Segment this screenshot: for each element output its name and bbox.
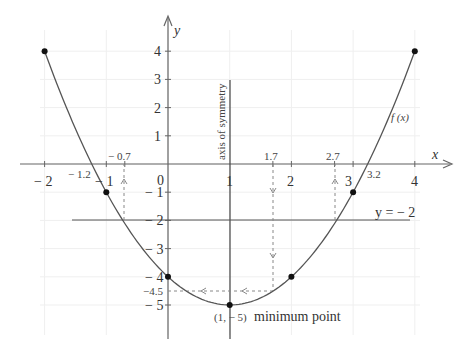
- function-label: f (x): [391, 111, 409, 124]
- x-tick-label: 1: [226, 174, 233, 189]
- quadratic-graph: axis of symmetry y = − 2 x y 0 f (x) − 2…: [0, 0, 476, 339]
- data-point: [165, 274, 171, 280]
- x-tick-label: 3: [345, 174, 352, 189]
- y-tick-label: − 3: [145, 242, 163, 257]
- y-tick-label: 3: [154, 72, 161, 87]
- x-17-label: 1.7: [264, 150, 278, 162]
- y-value-minus-4-5: −4.5: [143, 285, 163, 297]
- minimum-point-label: minimum point: [254, 309, 341, 324]
- data-point: [350, 189, 356, 195]
- horizontal-line-label: y = − 2: [375, 205, 415, 220]
- axis-of-symmetry-label: axis of symmetry: [215, 83, 227, 160]
- root-right-label: 3.2: [367, 168, 381, 180]
- y-tick-label: − 2: [145, 213, 163, 228]
- y-tick-label: − 1: [145, 185, 163, 200]
- data-point: [103, 189, 109, 195]
- y-tick-label: − 5: [145, 298, 163, 313]
- data-point: [412, 48, 418, 54]
- data-point: [227, 302, 233, 308]
- y-tick-label: 1: [154, 129, 161, 144]
- x-neg07-label: − 0.7: [108, 150, 131, 162]
- x-tick-label: − 1: [95, 174, 113, 189]
- x-tick-label: 4: [411, 174, 418, 189]
- y-tick-label: 4: [154, 44, 161, 59]
- x-tick-labels: − 2 − 1 1 2 3 4: [34, 174, 418, 189]
- data-point: [42, 48, 48, 54]
- minimum-point-coords: (1, − 5): [214, 311, 247, 324]
- y-tick-label: 2: [154, 101, 161, 116]
- y-tick-label: − 4: [145, 270, 163, 285]
- x-axis-label: x: [431, 147, 439, 162]
- root-left-label: − 1.2: [68, 168, 91, 180]
- y-axis-label: y: [172, 23, 181, 38]
- data-point: [288, 274, 294, 280]
- x-tick-label: 2: [287, 174, 294, 189]
- x-27-label: 2.7: [326, 150, 340, 162]
- x-tick-label: − 2: [34, 174, 52, 189]
